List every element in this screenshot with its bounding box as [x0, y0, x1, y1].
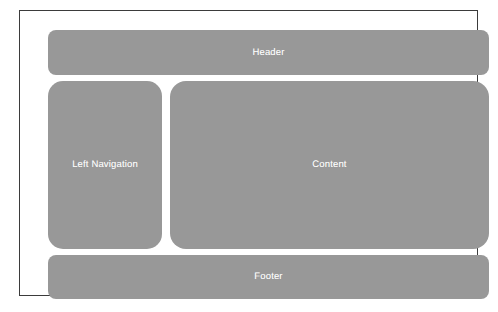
layout-region-content: Content — [170, 81, 489, 249]
layout-region-left-navigation: Left Navigation — [48, 81, 162, 249]
layout-grid: Header Left Navigation Content Footer — [48, 30, 489, 299]
diagram-outer-frame: Header Left Navigation Content Footer — [19, 10, 478, 296]
footer-label: Footer — [254, 272, 282, 282]
diagram-canvas: Header Left Navigation Content Footer — [0, 0, 498, 312]
content-label: Content — [312, 160, 346, 170]
layout-region-footer: Footer — [48, 255, 489, 299]
header-label: Header — [252, 48, 284, 58]
left-navigation-label: Left Navigation — [72, 160, 138, 170]
layout-region-header: Header — [48, 30, 489, 75]
